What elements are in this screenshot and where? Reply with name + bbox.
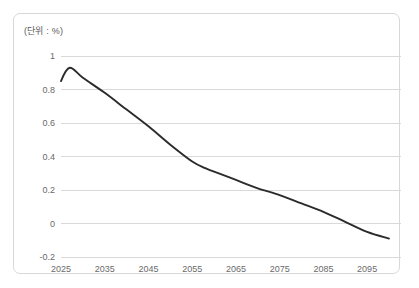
line-chart-svg — [14, 14, 401, 275]
data-line — [61, 68, 389, 239]
x-axis-tick-label: 2055 — [182, 264, 202, 274]
y-axis-tick-label: -0.2 — [15, 252, 55, 262]
y-axis-tick-label: 0.8 — [15, 85, 55, 95]
x-axis-tick-label: 2035 — [95, 264, 115, 274]
y-axis-tick-label: 0.2 — [15, 185, 55, 195]
y-axis-tick-label: 0 — [15, 219, 55, 229]
x-axis-tick-label: 2085 — [313, 264, 333, 274]
x-axis-tick-label: 2075 — [270, 264, 290, 274]
y-axis-tick-label: 0.6 — [15, 118, 55, 128]
x-axis-tick-label: 2025 — [51, 264, 71, 274]
x-axis-tick-label: 2095 — [357, 264, 377, 274]
y-axis-tick-label: 0.4 — [15, 152, 55, 162]
x-axis-tick-label: 2065 — [226, 264, 246, 274]
y-axis-tick-label: 1 — [15, 51, 55, 61]
chart-container: (단위 : %) 10.80.60.40.20-0.2 202520352045… — [13, 13, 400, 274]
data-series-group — [61, 68, 389, 239]
gridlines-group — [61, 56, 401, 257]
plot-area: 10.80.60.40.20-0.2 202520352045205520652… — [14, 14, 401, 275]
x-axis-tick-label: 2045 — [138, 264, 158, 274]
